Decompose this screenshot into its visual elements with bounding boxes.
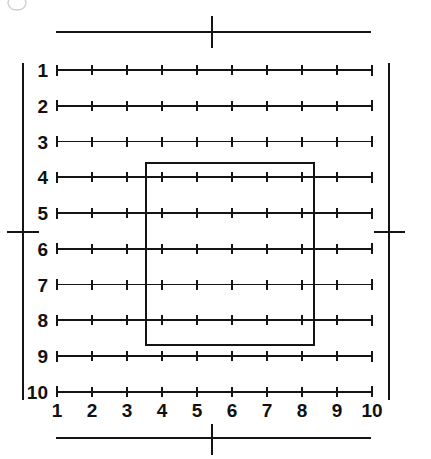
row-label: 6 — [37, 239, 48, 260]
column-label: 1 — [52, 400, 63, 421]
scale-rows — [57, 65, 372, 398]
row-label: 3 — [37, 132, 48, 153]
figure-root: 12345678910 12345678910 — [0, 0, 431, 459]
scale-row — [57, 315, 372, 326]
scale-row — [57, 243, 372, 254]
scale-row — [57, 279, 372, 290]
row-label: 1 — [37, 60, 48, 81]
scale-row — [57, 65, 372, 76]
row-label: 8 — [37, 310, 48, 331]
frame-top-rule — [56, 16, 371, 48]
column-label-group: 12345678910 — [52, 400, 383, 421]
scale-row — [57, 100, 372, 111]
grid-diagram: 12345678910 12345678910 — [0, 0, 431, 459]
scale-row — [57, 208, 372, 219]
column-label: 7 — [262, 400, 273, 421]
column-label: 6 — [227, 400, 238, 421]
registration-frame — [7, 16, 405, 455]
column-label: 4 — [157, 400, 168, 421]
scale-row — [57, 351, 372, 362]
row-label: 10 — [27, 382, 48, 403]
frame-bottom-rule — [56, 424, 371, 455]
column-label: 8 — [297, 400, 308, 421]
column-label: 3 — [122, 400, 133, 421]
scale-row — [57, 172, 372, 183]
scan-artifact — [8, 0, 26, 10]
row-label: 5 — [37, 203, 48, 224]
inner-region-rectangle — [146, 163, 314, 345]
column-label: 9 — [332, 400, 343, 421]
scale-row — [57, 136, 372, 147]
column-label: 2 — [87, 400, 98, 421]
column-label: 5 — [192, 400, 203, 421]
row-label: 9 — [37, 346, 48, 367]
row-label: 7 — [37, 275, 48, 296]
frame-right-rule — [374, 63, 405, 400]
row-label: 2 — [37, 96, 48, 117]
frame-left-rule — [7, 63, 39, 400]
scale-row — [57, 386, 372, 397]
column-label: 10 — [361, 400, 382, 421]
row-label: 4 — [37, 167, 48, 188]
